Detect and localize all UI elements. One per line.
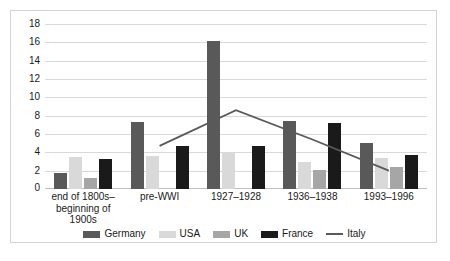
bar-france[interactable] <box>405 155 418 189</box>
x-axis-label-line2: beginning of 1900s <box>45 203 121 226</box>
legend-item-usa[interactable]: USA <box>159 229 201 239</box>
bar-cluster <box>121 24 197 189</box>
bar-usa[interactable] <box>298 162 311 190</box>
legend-label-germany: Germany <box>104 229 145 239</box>
bar-usa[interactable] <box>222 152 235 189</box>
legend-item-italy[interactable]: Italy <box>326 229 365 239</box>
bar-germany[interactable] <box>360 143 373 189</box>
bar-uk[interactable] <box>84 178 97 189</box>
legend-swatch-italy <box>326 233 343 235</box>
bar-usa[interactable] <box>146 156 159 189</box>
bar-germany[interactable] <box>283 121 296 189</box>
bar-france[interactable] <box>252 146 265 189</box>
y-axis-tick: 0 <box>34 183 40 193</box>
y-axis-tick: 4 <box>34 147 40 157</box>
legend-swatch-france <box>261 231 278 238</box>
plot-area: 18 16 14 12 10 8 6 4 2 0 <box>45 24 427 189</box>
bar-cluster <box>45 24 121 189</box>
bar-uk[interactable] <box>313 170 326 189</box>
x-axis-labels: end of 1800s– beginning of 1900s pre-WWI… <box>45 191 427 226</box>
y-axis-tick: 16 <box>29 37 40 47</box>
y-axis-tick: 18 <box>29 19 40 29</box>
bar-group <box>351 24 427 189</box>
legend-label-usa: USA <box>180 229 201 239</box>
bar-uk[interactable] <box>390 167 403 189</box>
y-axis-tick: 14 <box>29 56 40 66</box>
bar-cluster <box>351 24 427 189</box>
x-axis-label: end of 1800s– beginning of 1900s <box>45 191 121 226</box>
legend-swatch-uk <box>213 231 230 238</box>
bar-usa[interactable] <box>69 157 82 189</box>
bar-germany[interactable] <box>54 173 67 190</box>
bar-group <box>198 24 274 189</box>
x-axis-label: 1936–1938 <box>274 191 350 226</box>
bar-group <box>45 24 121 189</box>
bar-group <box>274 24 350 189</box>
legend-item-uk[interactable]: UK <box>213 229 248 239</box>
legend-swatch-germany <box>83 231 100 238</box>
bar-france[interactable] <box>99 159 112 189</box>
legend-label-italy: Italy <box>347 229 365 239</box>
y-axis-tick: 2 <box>34 166 40 176</box>
bar-group <box>121 24 197 189</box>
bar-france[interactable] <box>328 123 341 189</box>
x-axis-label: pre-WWI <box>121 191 197 226</box>
x-axis-label: 1993–1996 <box>351 191 427 226</box>
legend-swatch-usa <box>159 231 176 238</box>
legend-item-germany[interactable]: Germany <box>83 229 145 239</box>
bar-germany[interactable] <box>207 41 220 189</box>
x-axis-label: 1927–1928 <box>198 191 274 226</box>
bar-france[interactable] <box>176 146 189 189</box>
y-axis-tick: 12 <box>29 74 40 84</box>
legend-label-france: France <box>282 229 313 239</box>
chart-container: 18 16 14 12 10 8 6 4 2 0 end of 1800s– b… <box>10 10 437 243</box>
y-axis-tick: 6 <box>34 129 40 139</box>
y-axis-tick: 8 <box>34 111 40 121</box>
legend-label-uk: UK <box>234 229 248 239</box>
y-axis-tick: 10 <box>29 92 40 102</box>
bar-clusters <box>45 24 427 189</box>
bar-cluster <box>198 24 274 189</box>
x-axis-label-line1: end of 1800s– <box>45 191 121 203</box>
legend-item-france[interactable]: France <box>261 229 313 239</box>
chart-legend: Germany USA UK France Italy <box>11 229 438 239</box>
bar-germany[interactable] <box>131 122 144 189</box>
bar-usa[interactable] <box>375 158 388 189</box>
bar-cluster <box>274 24 350 189</box>
